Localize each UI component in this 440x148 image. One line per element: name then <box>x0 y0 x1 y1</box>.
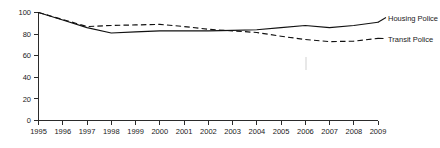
x-tick-label: 2004 <box>249 127 266 136</box>
x-axis-ticks <box>39 121 379 126</box>
scan-artifact <box>305 57 307 70</box>
x-tick-label: 2001 <box>176 127 193 136</box>
y-tick-label: 20 <box>23 95 31 104</box>
x-tick-label: 2002 <box>200 127 217 136</box>
x-tick-label: 2008 <box>346 127 363 136</box>
y-tick-label: 60 <box>23 51 31 60</box>
x-tick-label: 1997 <box>79 127 96 136</box>
legend-label-housing-police: Housing Police <box>388 14 438 23</box>
y-tick-label: 100 <box>18 8 31 17</box>
y-tick-label: 40 <box>23 73 31 82</box>
x-tick-label: 1996 <box>54 127 71 136</box>
legend-leader-housing-police <box>378 18 386 23</box>
y-tick-label: 0 <box>27 116 31 125</box>
x-tick-label: 2007 <box>321 127 338 136</box>
x-axis-labels: 1995 1996 1997 1998 1999 2000 2001 2002 … <box>30 127 386 136</box>
x-tick-label: 2009 <box>370 127 387 136</box>
x-tick-label: 2005 <box>273 127 290 136</box>
x-tick-label: 2003 <box>224 127 241 136</box>
chart-canvas: 100 80 60 40 20 0 1995 <box>0 0 440 148</box>
x-tick-label: 2006 <box>297 127 314 136</box>
x-tick-label: 1998 <box>103 127 120 136</box>
line-chart: 100 80 60 40 20 0 1995 <box>0 0 440 148</box>
x-tick-label: 1999 <box>127 127 144 136</box>
y-axis-labels: 100 80 60 40 20 0 <box>18 8 31 125</box>
y-tick-label: 80 <box>23 30 31 39</box>
y-axis-ticks <box>34 13 39 121</box>
legend-label-transit-police: Transit Police <box>388 35 433 44</box>
series-line-housing-police <box>39 13 379 34</box>
x-tick-label: 1995 <box>30 127 47 136</box>
x-tick-label: 2000 <box>151 127 168 136</box>
